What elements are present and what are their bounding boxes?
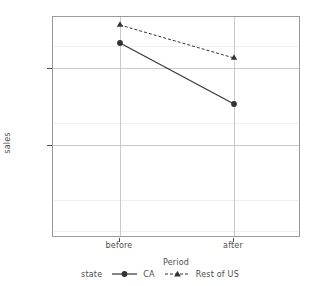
marker-ca-after xyxy=(231,101,237,107)
marker-rest-of-us-before xyxy=(117,21,123,27)
legend-label-ca: CA xyxy=(143,270,154,279)
x-tick-label-after: after xyxy=(203,241,263,250)
series-line-rest-of-us xyxy=(120,25,234,58)
line-chart: sales 100 50 xyxy=(0,0,320,286)
data-layer xyxy=(53,17,300,237)
series-line-ca xyxy=(120,43,234,104)
legend-item-rest-of-us[interactable]: Rest of US xyxy=(164,268,239,280)
plot-panel xyxy=(52,16,300,237)
legend-key-dashed-triangle-icon xyxy=(164,268,191,280)
marker-ca-before xyxy=(117,40,123,46)
legend: state CA Rest of US xyxy=(0,268,320,280)
x-tick-label-before: before xyxy=(89,241,149,250)
legend-title: state xyxy=(81,270,102,279)
y-axis-title: sales xyxy=(0,0,16,286)
legend-item-ca[interactable]: CA xyxy=(111,268,154,280)
legend-label-rest-of-us: Rest of US xyxy=(196,270,239,279)
x-axis-title: Period xyxy=(52,258,300,267)
legend-key-solid-circle-icon xyxy=(111,268,138,280)
